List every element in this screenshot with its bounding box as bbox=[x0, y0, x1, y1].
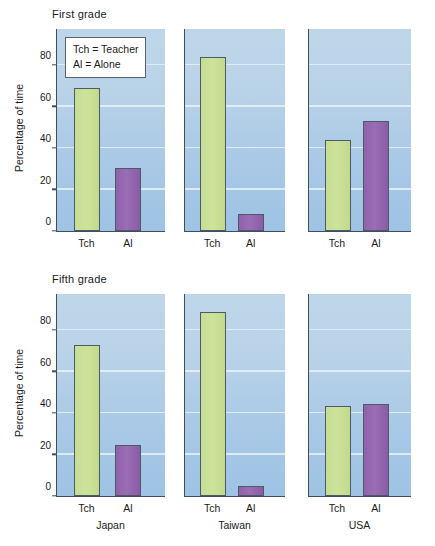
y-tick-label-0: 0 bbox=[45, 217, 51, 227]
bar-chart-figure: First grade Percentage of time Tch = Tea… bbox=[0, 0, 435, 546]
gridline bbox=[57, 329, 165, 331]
bar-al-usa bbox=[363, 404, 389, 496]
panel-first-taiwan: TchAl bbox=[184, 29, 285, 232]
country-label-japan: Japan bbox=[96, 519, 125, 531]
country-label-usa: USA bbox=[349, 519, 371, 531]
y-tick-label-40: 40 bbox=[40, 399, 51, 409]
y-tick-mark-40 bbox=[52, 412, 56, 413]
x-tick-label-tch: Tch bbox=[204, 237, 220, 249]
bar-al-usa bbox=[363, 121, 389, 231]
bar-al-taiwan bbox=[238, 486, 264, 496]
grade-row-fifth: Fifth grade Percentage of time TchAlJapa… bbox=[0, 265, 435, 538]
y-tick-label-40: 40 bbox=[40, 134, 51, 144]
y-tick-mark-0 bbox=[52, 495, 56, 496]
plot-area-first-usa bbox=[308, 29, 411, 232]
y-tick-mark-20 bbox=[52, 453, 56, 454]
x-tick-label-al: Al bbox=[371, 502, 380, 514]
y-tick-mark-60 bbox=[52, 371, 56, 372]
y-tick-mark-80 bbox=[52, 329, 56, 330]
y-tick-mark-80 bbox=[52, 64, 56, 65]
bar-tch-japan bbox=[74, 345, 100, 496]
x-tick-label-al: Al bbox=[371, 237, 380, 249]
gridline bbox=[309, 370, 411, 372]
x-tick-label-al: Al bbox=[123, 237, 132, 249]
x-tick-label-tch: Tch bbox=[78, 237, 94, 249]
y-tick-label-20: 20 bbox=[40, 176, 51, 186]
y-tick-label-20: 20 bbox=[40, 441, 51, 451]
y-tick-mark-60 bbox=[52, 106, 56, 107]
plot-area-fifth-japan bbox=[56, 294, 165, 497]
bar-al-japan bbox=[115, 445, 141, 496]
gridline bbox=[309, 105, 411, 107]
plot-area-first-taiwan bbox=[184, 29, 285, 232]
y-tick-label-80: 80 bbox=[40, 316, 51, 326]
plot-area-fifth-usa bbox=[308, 294, 411, 497]
y-tick-mark-0 bbox=[52, 230, 56, 231]
legend-line-tch: Tch = Teacher bbox=[73, 42, 138, 57]
y-axis-label-first: Percentage of time bbox=[13, 63, 25, 193]
x-tick-label-al: Al bbox=[246, 502, 255, 514]
x-tick-label-tch: Tch bbox=[78, 502, 94, 514]
bar-tch-taiwan bbox=[200, 57, 226, 231]
bar-al-taiwan bbox=[238, 214, 264, 231]
gridline bbox=[57, 412, 165, 414]
x-tick-label-tch: Tch bbox=[329, 237, 345, 249]
gridline bbox=[57, 453, 165, 455]
bar-tch-usa bbox=[325, 140, 351, 231]
y-tick-label-60: 60 bbox=[40, 93, 51, 103]
chart-legend: Tch = Teacher Al = Alone bbox=[65, 37, 146, 78]
panel-first-usa: TchAl bbox=[308, 29, 411, 232]
y-axis-label-fifth: Percentage of time bbox=[13, 328, 25, 458]
grade-title-first: First grade bbox=[52, 8, 107, 20]
gridline bbox=[57, 147, 165, 149]
bar-tch-japan bbox=[74, 88, 100, 231]
bar-tch-usa bbox=[325, 406, 351, 496]
gridline bbox=[309, 329, 411, 331]
gridline bbox=[57, 105, 165, 107]
gridline bbox=[57, 370, 165, 372]
country-label-taiwan: Taiwan bbox=[218, 519, 251, 531]
grade-row-first: First grade Percentage of time Tch = Tea… bbox=[0, 0, 435, 273]
y-tick-mark-40 bbox=[52, 147, 56, 148]
y-tick-label-60: 60 bbox=[40, 358, 51, 368]
panel-fifth-taiwan: TchAlTaiwan bbox=[184, 294, 285, 497]
bar-al-japan bbox=[115, 168, 141, 231]
y-tick-label-80: 80 bbox=[40, 51, 51, 61]
x-tick-label-tch: Tch bbox=[204, 502, 220, 514]
legend-line-al: Al = Alone bbox=[73, 57, 138, 72]
y-tick-mark-20 bbox=[52, 188, 56, 189]
gridline bbox=[57, 188, 165, 190]
x-tick-label-tch: Tch bbox=[329, 502, 345, 514]
panel-fifth-usa: TchAlUSA bbox=[308, 294, 411, 497]
panel-first-japan: Tch = Teacher Al = Alone TchAl020406080 bbox=[56, 29, 165, 232]
panel-fifth-japan: TchAlJapan020406080 bbox=[56, 294, 165, 497]
plot-area-fifth-taiwan bbox=[184, 294, 285, 497]
x-tick-label-al: Al bbox=[123, 502, 132, 514]
bar-tch-taiwan bbox=[200, 312, 226, 496]
grade-title-fifth: Fifth grade bbox=[52, 273, 107, 285]
y-tick-label-0: 0 bbox=[45, 482, 51, 492]
gridline bbox=[309, 64, 411, 66]
x-tick-label-al: Al bbox=[246, 237, 255, 249]
